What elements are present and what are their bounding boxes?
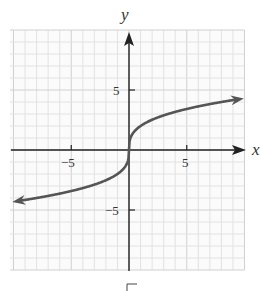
x-axis-label: x	[251, 140, 260, 159]
x-tick-label-pos5: 5	[182, 155, 189, 170]
graph: y x −5 5 5 −5	[0, 0, 261, 291]
y-tick-label-pos5: 5	[113, 83, 120, 98]
footer-radical-glyph	[127, 284, 137, 291]
x-tick-label-neg5: −5	[61, 155, 75, 170]
y-axis-label: y	[119, 5, 129, 24]
y-tick-label-neg5: −5	[105, 203, 119, 218]
